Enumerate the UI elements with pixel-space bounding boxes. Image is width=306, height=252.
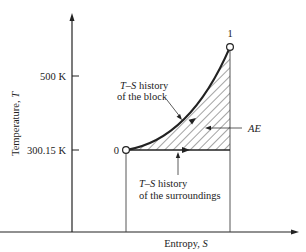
y-axis-arrow-icon [70, 13, 75, 21]
y-axis-label: Temperature, T [10, 91, 21, 156]
x-axis [0, 230, 299, 235]
y-axis [70, 13, 80, 232]
block-label-line2: of the block [117, 91, 168, 102]
x-axis-arrow-icon [291, 230, 299, 235]
surroundings-label-line2: of the surroundings [139, 190, 221, 201]
block-label-line1: T–S history [120, 80, 169, 91]
surroundings-label-line1: T–S history [139, 178, 188, 189]
state-point-1 [227, 44, 234, 51]
state-point-0 [123, 147, 130, 154]
state-label-0: 0 [114, 145, 119, 156]
surroundings-leader-arrow-icon [176, 152, 180, 158]
tick-label-500k: 500 K [40, 71, 66, 82]
ts-diagram: 500 K 300.15 K Temperature, T Entropy, S… [0, 0, 306, 252]
state-label-1: 1 [227, 28, 232, 39]
ae-label: AE [247, 123, 261, 134]
x-axis-label: Entropy, S [164, 238, 208, 249]
tick-label-300k: 300.15 K [27, 145, 67, 156]
